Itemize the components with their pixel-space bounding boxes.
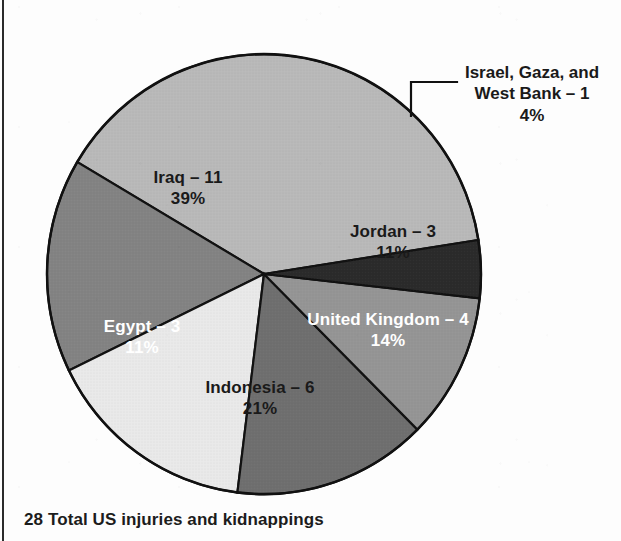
pie-halftone-overlay xyxy=(47,54,481,494)
pie-label-israel-line2: West Bank – 1 xyxy=(448,83,616,104)
pie-label-israel-line1: Israel, Gaza, and xyxy=(448,62,616,83)
chart-caption: 28 Total US injuries and kidnappings xyxy=(24,510,324,530)
chart-page: Iraq – 11 39% Jordan – 3 11% United King… xyxy=(0,0,621,541)
pie-chart: Iraq – 11 39% Jordan – 3 11% United King… xyxy=(0,0,621,541)
pie-label-israel-gaza-west-bank: Israel, Gaza, and West Bank – 1 4% xyxy=(448,62,616,126)
pie-label-israel-percent: 4% xyxy=(448,105,616,126)
